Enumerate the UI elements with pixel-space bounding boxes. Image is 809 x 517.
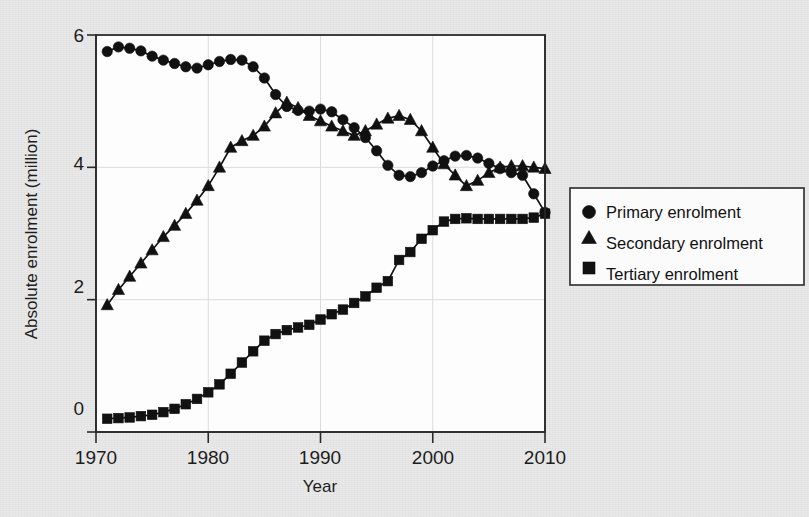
square-marker-icon xyxy=(428,225,438,235)
square-marker-icon xyxy=(192,394,202,404)
square-marker-icon xyxy=(260,336,270,346)
x-tick-label-2010: 2010 xyxy=(524,447,566,468)
square-marker-icon xyxy=(102,414,112,424)
y-tick-label-0: 0 xyxy=(73,398,84,419)
square-marker-icon xyxy=(136,411,146,421)
circle-marker-icon xyxy=(113,42,123,52)
y-axis-ticks xyxy=(87,35,96,432)
circle-marker-icon xyxy=(270,89,280,99)
circle-marker-icon xyxy=(248,62,258,72)
square-marker-icon xyxy=(338,305,348,315)
circle-marker-icon xyxy=(203,60,213,70)
circle-marker-icon xyxy=(405,171,415,181)
square-marker-icon xyxy=(439,217,449,227)
circle-marker-icon xyxy=(529,189,539,199)
square-marker-icon xyxy=(125,413,135,423)
circle-marker-icon xyxy=(461,150,471,160)
circle-marker-icon xyxy=(169,58,179,68)
square-marker-icon xyxy=(114,413,124,423)
square-marker-icon xyxy=(304,320,314,330)
square-marker-icon xyxy=(293,323,303,333)
x-tick-label-1970: 1970 xyxy=(75,447,117,468)
square-marker-icon xyxy=(484,214,494,224)
square-marker-icon xyxy=(147,410,157,420)
enrolment-line-chart-figure: 6 4 2 0 1970 1980 1990 2000 2010 Year Ab… xyxy=(0,0,809,517)
x-axis-title: Year xyxy=(303,477,338,496)
square-marker-icon xyxy=(361,292,371,302)
x-tick-label-2000: 2000 xyxy=(412,447,454,468)
circle-marker-icon xyxy=(383,160,393,170)
circle-marker-icon xyxy=(181,62,191,72)
square-marker-icon xyxy=(159,407,169,417)
square-marker-icon xyxy=(372,283,382,293)
circle-marker-icon xyxy=(147,51,157,61)
y-tick-label-4: 4 xyxy=(73,153,84,174)
square-marker-icon xyxy=(181,399,191,409)
square-marker-icon xyxy=(417,234,427,244)
square-marker-icon xyxy=(394,255,404,265)
legend-label-secondary: Secondary enrolment xyxy=(606,234,763,252)
circle-marker-icon xyxy=(327,107,337,117)
circle-marker-icon xyxy=(338,114,348,124)
circle-marker-icon xyxy=(214,56,224,66)
circle-marker-icon xyxy=(192,63,202,73)
circle-marker-icon xyxy=(472,153,482,163)
circle-marker-icon xyxy=(583,206,596,219)
circle-marker-icon xyxy=(450,151,460,161)
y-tick-label-2: 2 xyxy=(73,276,84,297)
square-marker-icon xyxy=(226,369,236,379)
circle-marker-icon xyxy=(428,161,438,171)
x-axis-ticks xyxy=(96,432,545,443)
square-marker-icon xyxy=(203,388,213,398)
circle-marker-icon xyxy=(226,54,236,64)
chart-canvas: 6 4 2 0 1970 1980 1990 2000 2010 Year Ab… xyxy=(0,0,809,517)
square-marker-icon xyxy=(450,214,460,224)
y-tick-label-6: 6 xyxy=(73,25,84,46)
square-marker-icon xyxy=(495,214,505,224)
square-marker-icon xyxy=(518,214,528,224)
y-axis-title: Absolute enrolment (million) xyxy=(22,129,41,340)
square-marker-icon xyxy=(406,247,416,257)
circle-marker-icon xyxy=(124,43,134,53)
circle-marker-icon xyxy=(158,55,168,65)
square-marker-icon xyxy=(462,213,472,223)
square-marker-icon xyxy=(327,309,337,319)
circle-marker-icon xyxy=(237,55,247,65)
circle-marker-icon xyxy=(517,170,527,180)
square-marker-icon xyxy=(271,329,281,339)
square-marker-icon xyxy=(349,298,359,308)
square-marker-icon xyxy=(473,214,483,224)
square-marker-icon xyxy=(529,213,539,223)
legend-label-tertiary: Tertiary enrolment xyxy=(606,265,738,283)
circle-marker-icon xyxy=(102,46,112,56)
square-marker-icon xyxy=(215,380,225,390)
circle-marker-icon xyxy=(259,73,269,83)
square-marker-icon xyxy=(507,214,517,224)
square-marker-icon xyxy=(237,358,247,368)
square-marker-icon xyxy=(282,325,292,335)
square-marker-icon xyxy=(316,315,326,325)
legend-label-primary: Primary enrolment xyxy=(606,203,741,221)
circle-marker-icon xyxy=(315,104,325,114)
square-marker-icon xyxy=(248,346,258,356)
x-tick-label-1980: 1980 xyxy=(187,447,229,468)
x-tick-label-1990: 1990 xyxy=(299,447,341,468)
square-marker-icon xyxy=(383,276,393,286)
circle-marker-icon xyxy=(416,167,426,177)
circle-marker-icon xyxy=(394,170,404,180)
chart-legend: Primary enrolment Secondary enrolment Te… xyxy=(570,188,804,285)
circle-marker-icon xyxy=(371,146,381,156)
circle-marker-icon xyxy=(136,46,146,56)
square-marker-icon xyxy=(170,404,180,414)
square-marker-icon xyxy=(583,262,595,274)
